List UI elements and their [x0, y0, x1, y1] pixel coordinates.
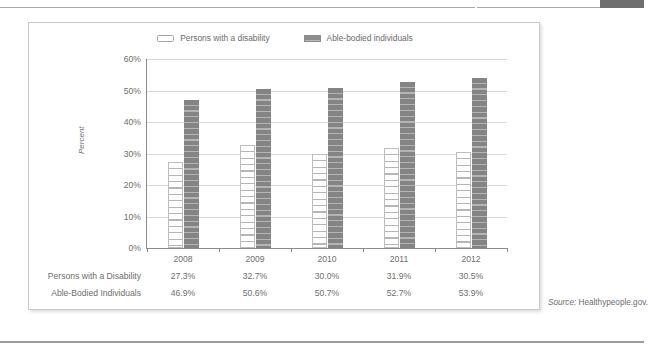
page-bottom-rule: [0, 341, 644, 343]
bar-2009-series-2: [256, 89, 271, 248]
bar-2010-series-2: [328, 88, 343, 248]
bar-2011-series-2: [400, 82, 415, 248]
bar-group-2010: [291, 59, 363, 248]
y-axis-tick-label-50: 50%: [101, 86, 141, 96]
table-row-years-cell-2009: 2009: [225, 251, 285, 268]
bar-group-2011: [363, 59, 435, 248]
table-row-years-cell-2012: 2012: [441, 251, 501, 268]
y-axis-tick-label-10: 10%: [101, 212, 141, 222]
table-row-2-cell-2009: 50.6%: [225, 285, 285, 302]
bar-2011-series-1: [384, 148, 399, 248]
table-row-1-cell-2009: 32.7%: [225, 268, 285, 285]
page-top-rule: [0, 7, 644, 8]
y-axis-tick-label-30: 30%: [101, 149, 141, 159]
table-row-1-cell-2011: 31.9%: [369, 268, 429, 285]
table-row-1-cell-2010: 30.0%: [297, 268, 357, 285]
table-row-1-cell-2012: 30.5%: [441, 268, 501, 285]
source-value: Healthypeople.gov.: [579, 298, 648, 307]
bar-group-2008: [147, 59, 219, 248]
table-row-years-cell-2010: 2010: [297, 251, 357, 268]
table-row-2-cell-2011: 52.7%: [369, 285, 429, 302]
y-axis-title: Percent: [77, 126, 86, 154]
table-row-1-cell-2008: 27.3%: [153, 268, 213, 285]
table-row-2: Able-Bodied Individuals46.9%50.6%50.7%52…: [29, 285, 541, 302]
page-header-block: [600, 0, 644, 8]
table-row-years: 20082009201020112012: [29, 251, 541, 268]
bar-2008-series-2: [184, 100, 199, 248]
bar-2010-series-1: [312, 154, 327, 249]
data-table: 20082009201020112012Persons with a Disab…: [29, 251, 541, 302]
bar-2009-series-1: [240, 145, 255, 248]
bar-group-2012: [435, 59, 507, 248]
table-row-label-2: Able-Bodied Individuals: [29, 285, 141, 302]
bar-group-2009: [219, 59, 291, 248]
y-axis-tick-label-60: 60%: [101, 54, 141, 64]
table-row-years-cell-2011: 2011: [369, 251, 429, 268]
table-row-2-cell-2012: 53.9%: [441, 285, 501, 302]
table-row-2-cell-2008: 46.9%: [153, 285, 213, 302]
x-axis-line: [146, 248, 507, 249]
table-row-label-1: Persons with a Disability: [29, 268, 141, 285]
source-label: Source:: [548, 298, 576, 307]
figure-container: Persons with a disability Able-bodied in…: [28, 22, 540, 310]
table-row-1: Persons with a Disability27.3%32.7%30.0%…: [29, 268, 541, 285]
page-top-rule-gap: [475, 0, 477, 8]
source-note: Source: Healthypeople.gov.: [548, 298, 648, 307]
bar-2012-series-2: [472, 78, 487, 248]
bar-2008-series-1: [168, 162, 183, 248]
y-axis-tick-label-20: 20%: [101, 180, 141, 190]
table-row-years-cell-2008: 2008: [153, 251, 213, 268]
table-row-2-cell-2010: 50.7%: [297, 285, 357, 302]
y-axis-tick-label-40: 40%: [101, 117, 141, 127]
bar-2012-series-1: [456, 152, 471, 248]
